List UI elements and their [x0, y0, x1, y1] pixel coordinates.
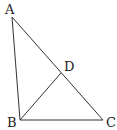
label-d: D	[64, 59, 74, 74]
label-c: C	[106, 115, 116, 130]
triangle-diagram: A B C D	[0, 0, 117, 130]
segment-ab	[12, 17, 20, 120]
label-a: A	[4, 2, 15, 17]
segment-bd	[20, 73, 61, 120]
label-b: B	[7, 115, 17, 130]
segment-ac	[12, 17, 103, 120]
